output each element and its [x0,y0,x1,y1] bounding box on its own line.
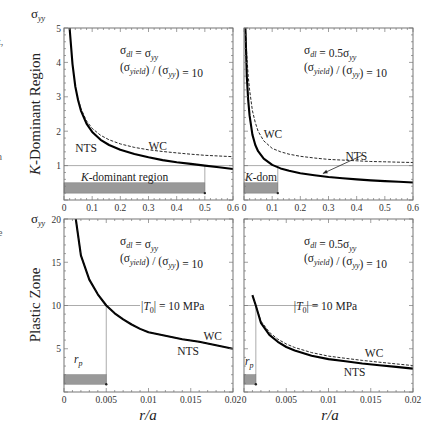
x-tick-label: 0.02 [405,395,422,405]
y-tick-label: 3 [56,92,61,102]
x-tick-label: 0.005 [276,395,298,405]
x-axis-label-right: r/a [321,407,339,423]
x-tick-label: 0.1 [266,203,278,213]
curve-label-wc: WC [149,140,168,152]
edge-fragments: t, n e [0,36,3,238]
region-bar [64,375,106,385]
x-tick-label: 0.3 [323,203,335,213]
x-tick-label: 0.01 [140,395,157,405]
x-tick-label: 0 [62,203,67,213]
x-tick-label: 0.2 [114,203,126,213]
ratio-annotation: (σyield) / (σyy) = 10 [304,252,387,271]
rp-label: rp [245,355,253,370]
condition-annotation: σdl = σyy [120,44,158,62]
condition-annotation: σdl = σyy [120,235,158,253]
y-tick-label: 2 [56,127,61,137]
x-tick-label: 0.5 [379,203,391,213]
figure: t, n e K-Dominant Region Plastic Zone σy… [0,0,440,438]
row-label-rest: -Dominant Region [27,52,43,165]
chart-panel-plastic-zone-left: rpWCNTSσdl = σyy(σyield) / (σyy) = 10|T0… [52,215,242,406]
x-tick-label: 0.3 [143,203,155,213]
arrow-head-icon [255,383,257,385]
pointer-arrow [323,155,362,173]
y-tick-label: 15 [52,258,62,268]
curve-label-wc: WC [365,347,384,359]
condition-annotation: σdl = 0.5σyy [304,235,357,253]
y-tick-label: 5 [56,24,61,34]
chart-panel-k-dominant-left: K-dominant regionNTSWCσdl = σyy(σyield) … [56,24,239,214]
region-bar-label: K-dom [244,171,277,183]
t0-annotation: |T0| = 10 MPa [294,300,357,315]
arrow-head-icon [105,383,107,385]
x-axis-label-left: r/a [139,407,157,423]
ratio-annotation: (σyield) / (σyy) = 10 [304,61,387,80]
x-tick-label: 0.5 [199,203,211,213]
row-label-plastic-zone: Plastic Zone [27,267,43,342]
y-tick-label: 10 [52,301,62,311]
curve-label-nts: NTS [344,366,366,378]
curve-label-nts: NTS [75,142,97,154]
condition-annotation: σdl = 0.5σyy [304,44,357,62]
x-tick-label: 0.6 [227,203,239,213]
x-tick-label: 0.02 [225,395,242,405]
region-bar [244,183,278,193]
x-tick-label: 0 [242,203,247,213]
x-tick-label: 0.005 [96,395,118,405]
curve-label-wc: WC [203,330,222,342]
t0-annotation: |T0| = 10 MPa [141,300,204,315]
curve-label-nts: NTS [177,345,199,357]
arrow-head-icon [204,192,206,194]
x-tick-label: 0.6 [407,203,419,213]
x-tick-label: 0.4 [351,203,363,213]
rp-label: rp [74,353,82,368]
x-tick-label: 0.2 [294,203,306,213]
x-tick-label: 0.015 [180,395,202,405]
y-tick-label: 5 [56,344,61,354]
x-tick-label: 0.015 [360,395,382,405]
chart-panel-k-dominant-right: K-domWCNTSσdl = 0.5σyy(σyield) / (σyy) =… [242,28,420,213]
curve-label-wc: WC [264,128,283,140]
region-bar-label: K-dominant region [80,171,168,184]
edge-fragment: n [0,151,2,162]
y-axis-label-top: σyy [31,6,46,23]
edge-fragment: t, [0,36,3,47]
x-tick-label: 0.1 [86,203,98,213]
x-tick-label: 0 [242,395,247,405]
ratio-annotation: (σyield) / (σyy) = 10 [120,61,203,80]
region-bar [64,183,205,193]
chart-panel-plastic-zone-right: rpWCNTSσdl = 0.5σyy(σyield) / (σyy) = 10… [242,219,422,405]
y-tick-label: 4 [56,58,61,68]
y-tick-label: 1 [56,161,61,171]
x-tick-label: 0.4 [171,203,183,213]
y-axis-label-bottom: σyy [31,211,46,228]
edge-fragment: e [0,227,3,238]
arrow-head-icon [277,192,279,194]
y-tick-label: 20 [52,215,62,225]
curve-label-nts: NTS [345,150,367,162]
x-tick-label: 0.01 [320,395,337,405]
region-bar [244,375,256,385]
x-tick-label: 0 [62,395,67,405]
row-label-k-dominant: K-Dominant Region [27,52,43,176]
ratio-annotation: (σyield) / (σyy) = 10 [120,252,203,271]
panels: K-dominant regionNTSWCσdl = σyy(σyield) … [52,24,422,406]
